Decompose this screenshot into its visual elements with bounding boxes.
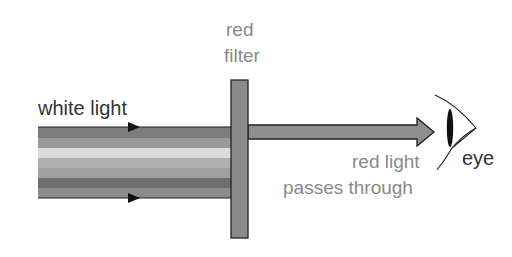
red-filter [231, 80, 248, 238]
diagram-graphics [0, 0, 512, 257]
white-light-beam [38, 127, 232, 198]
eye-icon [435, 95, 476, 170]
red-light-arrow [248, 118, 434, 146]
